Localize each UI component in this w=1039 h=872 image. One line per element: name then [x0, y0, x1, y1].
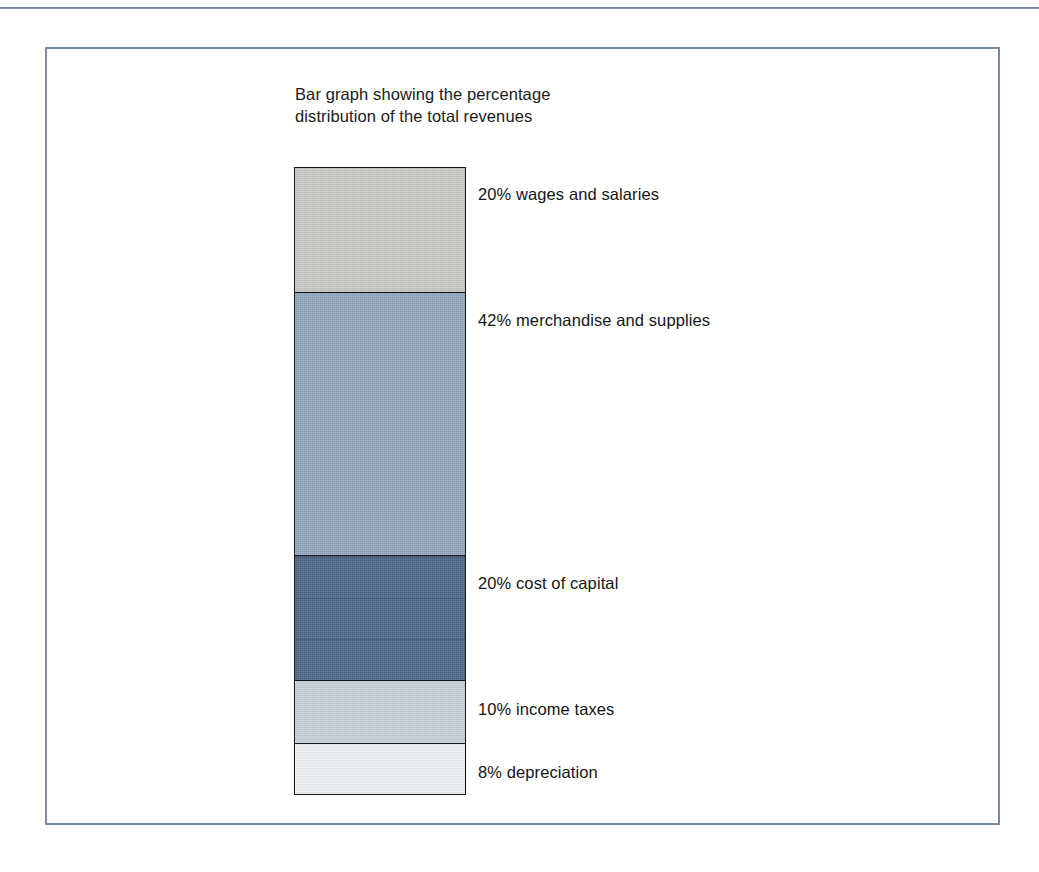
bar-segment-income-taxes	[295, 680, 465, 743]
segment-label-wages-and-salaries: 20% wages and salaries	[478, 185, 659, 204]
figure-caption: Bar graph showing the percentage distrib…	[295, 83, 725, 127]
segment-label-cost-of-capital: 20% cost of capital	[478, 574, 618, 593]
bar-segment-wages-and-salaries	[295, 168, 465, 292]
bar-segment-merchandise-and-supplies	[295, 292, 465, 554]
segment-label-merchandise-and-supplies: 42% merchandise and supplies	[478, 311, 710, 330]
segment-label-depreciation: 8% depreciation	[478, 763, 598, 782]
stacked-bar-chart	[294, 167, 466, 795]
bar-segment-depreciation	[295, 743, 465, 794]
segment-label-income-taxes: 10% income taxes	[478, 700, 614, 719]
figure-caption-line-1: Bar graph showing the percentage	[295, 83, 725, 105]
page-top-rule	[0, 7, 1039, 9]
figure-caption-line-2: distribution of the total revenues	[295, 105, 725, 127]
bar-segment-cost-of-capital	[295, 555, 465, 680]
